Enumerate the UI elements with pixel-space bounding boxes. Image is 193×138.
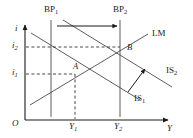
y-tick-i2: i2: [12, 41, 18, 50]
bp2-label-sub: 2: [124, 8, 127, 15]
y-tick-i1: i1: [12, 68, 18, 77]
lm-label-base: LM: [152, 28, 166, 38]
lm-label: LM: [152, 29, 166, 38]
origin-label: O: [12, 119, 19, 128]
bp1-label: BP1: [44, 5, 58, 14]
is-shift-arrow: [128, 69, 145, 92]
y-tick-i2-sub: 2: [15, 44, 18, 51]
vertical-axis-label: i: [15, 24, 18, 33]
point-b-label: B: [127, 43, 132, 52]
figure-canvas: [0, 0, 193, 138]
y-tick-i1-sub: 1: [15, 71, 18, 78]
is2-label: IS2: [166, 66, 177, 75]
x-tick-y1-sub: 1: [74, 125, 77, 132]
is1-line: [31, 33, 140, 100]
horizontal-axis-label: Y: [167, 124, 172, 133]
x-tick-y1: Y1: [69, 122, 77, 131]
bp1-label-sub: 1: [55, 8, 58, 15]
point-a-label: A: [73, 62, 78, 71]
x-tick-y2: Y2: [114, 122, 122, 131]
is2-label-sub: 2: [174, 69, 177, 76]
bp1-label-base: BP: [44, 4, 55, 14]
x-tick-y2-sub: 2: [119, 125, 122, 132]
bp2-label: BP2: [113, 5, 127, 14]
is2-label-base: IS: [166, 65, 174, 75]
bp2-label-base: BP: [113, 4, 124, 14]
is1-label: IS1: [134, 94, 145, 103]
is1-label-sub: 1: [142, 97, 145, 104]
is-lm-bp-figure: i Y O i2 i1 Y1 Y2 BP1 BP2 LM IS1 IS2 A B: [0, 0, 193, 138]
is1-label-base: IS: [134, 93, 142, 103]
